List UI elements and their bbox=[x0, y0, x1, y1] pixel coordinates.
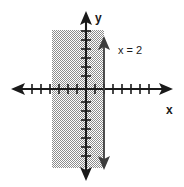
graph-canvas bbox=[0, 0, 184, 187]
x-axis-label: x bbox=[166, 104, 173, 116]
coordinate-plane-figure: y x x = 2 bbox=[0, 0, 184, 187]
y-axis-label: y bbox=[95, 12, 102, 24]
boundary-line-label: x = 2 bbox=[118, 45, 142, 56]
solution-shaded-region bbox=[52, 30, 104, 168]
